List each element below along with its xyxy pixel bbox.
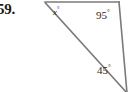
triangle-right-edge xyxy=(119,2,127,92)
angle-label-top-right: 95° xyxy=(96,9,110,21)
angle-value-bottom-right: 45 xyxy=(97,64,108,76)
degree-symbol-icon: ° xyxy=(108,63,111,71)
geometry-figure: 59. x° 95° 45° xyxy=(0,0,129,92)
angle-label-bottom-right: 45° xyxy=(97,64,111,76)
degree-symbol-icon: ° xyxy=(57,6,59,12)
angle-label-unknown-x: x° xyxy=(53,6,59,17)
degree-symbol-icon: ° xyxy=(107,8,110,16)
angle-value-top-right: 95 xyxy=(96,9,107,21)
